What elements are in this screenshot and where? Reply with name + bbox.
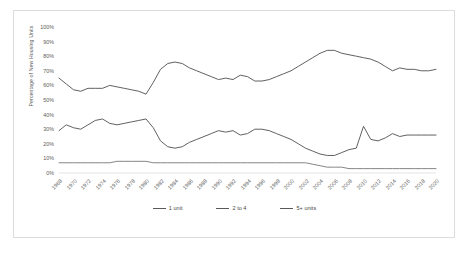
chart-legend: 1 unit2 to 45+ units [0,205,469,211]
legend-line-icon [153,208,166,209]
series-line [59,119,436,155]
legend-entry[interactable]: 2 to 4 [216,205,246,211]
legend-line-icon [280,208,293,209]
legend-label: 2 to 4 [232,205,246,211]
chart-figure: Percentage of New Housing Units 0%10%20%… [0,0,469,253]
legend-label: 5+ units [296,205,316,211]
legend-line-icon [216,208,229,209]
series-line [59,50,436,94]
legend-entry[interactable]: 5+ units [280,205,316,211]
legend-label: 1 unit [169,205,183,211]
series-line [59,161,436,168]
legend-entry[interactable]: 1 unit [153,205,183,211]
chart-plot-frame: Percentage of New Housing Units 0%10%20%… [13,10,455,238]
